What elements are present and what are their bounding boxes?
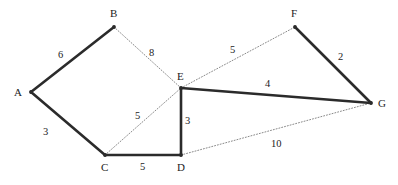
node-label-b: B (110, 7, 117, 19)
graph-edge-b-e (114, 27, 181, 88)
graph-edge-f-g (295, 27, 371, 103)
graph-node-e (179, 86, 183, 90)
node-label-a: A (14, 86, 22, 98)
graph-node-a (29, 90, 33, 94)
node-dot-layer (29, 25, 373, 157)
node-label-e: E (177, 70, 184, 82)
edge-weight-a-c: 3 (43, 126, 48, 137)
edge-weight-e-f: 5 (230, 44, 235, 55)
graph-edge-a-b (31, 27, 114, 92)
node-label-c: C (101, 161, 108, 173)
edge-weight-a-b: 6 (58, 49, 63, 60)
graph-node-g (369, 101, 373, 105)
graph-edge-e-g (181, 88, 371, 103)
graph-edge-c-e (105, 88, 181, 155)
edge-weight-d-g: 10 (271, 138, 282, 149)
edge-weight-e-g: 4 (265, 78, 270, 89)
edge-weight-e-d: 3 (185, 115, 190, 126)
graph-edge-a-c (31, 92, 105, 155)
node-label-d: D (177, 161, 185, 173)
edge-weight-f-g: 2 (338, 51, 343, 62)
graph-edge-e-f (181, 27, 295, 88)
graph-figure: 63534285510 ABCDEFG (0, 0, 398, 185)
graph-node-c (103, 153, 107, 157)
edge-weight-c-d: 5 (140, 161, 145, 172)
graph-node-b (112, 25, 116, 29)
graph-node-d (179, 153, 183, 157)
graph-node-f (293, 25, 297, 29)
solid-edge-layer (31, 27, 371, 155)
edge-weight-c-e: 5 (135, 110, 140, 121)
node-label-f: F (291, 7, 297, 19)
node-label-g: G (378, 97, 386, 109)
graph-canvas (0, 0, 398, 185)
edge-weight-b-e: 8 (149, 47, 154, 58)
dotted-edge-layer (105, 27, 371, 155)
